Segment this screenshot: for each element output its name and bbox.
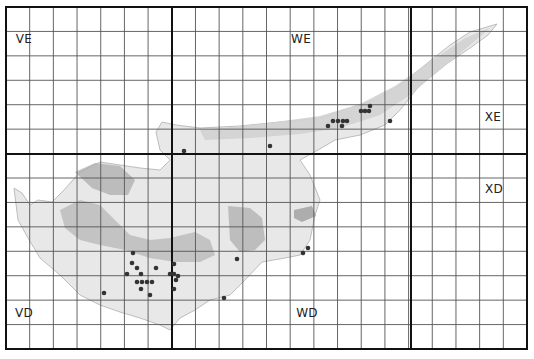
record-dot — [135, 280, 140, 285]
record-dot — [130, 261, 135, 266]
grid-square-label: WE — [291, 32, 311, 46]
grid-square-label: WD — [296, 306, 318, 320]
record-dot — [341, 119, 346, 124]
record-dot — [154, 266, 159, 271]
record-dot — [150, 280, 155, 285]
record-dot — [168, 272, 173, 277]
record-dot — [367, 109, 372, 114]
record-dot — [340, 124, 345, 129]
record-dot — [331, 119, 336, 124]
record-dot — [125, 272, 130, 277]
record-dot — [131, 251, 136, 256]
grid-square-label: VE — [16, 32, 32, 46]
kyrenia-range — [200, 28, 490, 140]
record-dot — [182, 149, 187, 154]
record-dot — [306, 246, 311, 251]
record-dot — [176, 274, 181, 279]
record-dot — [172, 262, 177, 267]
record-dot — [363, 109, 368, 114]
record-dot — [368, 104, 373, 109]
record-dot — [222, 296, 227, 301]
record-dot — [139, 287, 144, 292]
record-dot — [139, 272, 144, 277]
map-canvas — [0, 0, 534, 359]
grid-square-label: XE — [485, 110, 501, 124]
record-dot — [102, 291, 107, 296]
record-dot — [172, 272, 177, 277]
record-dot — [301, 251, 306, 256]
record-dot — [235, 257, 240, 262]
record-dot — [359, 109, 364, 114]
record-dot — [388, 119, 393, 124]
record-dot — [148, 293, 153, 298]
record-dot — [172, 287, 177, 292]
record-dot — [336, 119, 341, 124]
distribution-map: VEWEXEVDWDXD — [0, 0, 534, 359]
island-landmass — [14, 24, 497, 330]
record-dot — [326, 124, 331, 129]
record-dot — [345, 119, 350, 124]
record-dot — [174, 278, 179, 283]
grid-square-label: VD — [15, 306, 33, 320]
record-dot — [140, 280, 145, 285]
grid-square-label: XD — [485, 182, 503, 196]
record-dot — [268, 144, 273, 149]
record-dot — [135, 266, 140, 271]
record-dot — [145, 280, 150, 285]
